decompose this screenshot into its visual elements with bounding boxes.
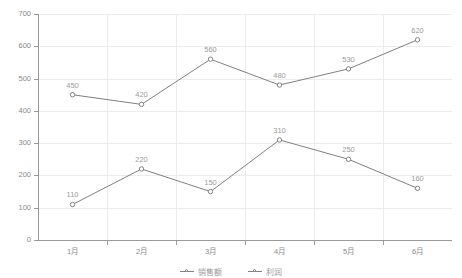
y-tick-label: 500 [18,74,31,83]
data-point-label: 250 [342,145,355,154]
data-point-label: 620 [411,26,424,35]
data-point-label: 150 [204,178,217,187]
x-tick-label: 1月 [67,247,78,256]
data-point-label: 560 [204,45,217,54]
data-point-marker [346,157,350,161]
data-point-marker [415,38,419,42]
data-point-label: 160 [411,174,424,183]
data-point-label: 530 [342,55,355,64]
y-tick-label: 0 [27,235,31,244]
data-point-label: 110 [67,190,79,199]
data-point-marker [415,186,419,190]
grid-lines [38,14,452,240]
legend-entry[interactable]: 销售额 [180,266,222,277]
y-tick-label: 200 [18,170,31,179]
y-tick-label: 100 [18,203,31,212]
data-point-marker [139,102,143,106]
data-point-marker [346,67,350,71]
y-axis: 0100200300400500600700 [18,9,38,244]
legend-label: 销售额 [198,266,222,277]
data-point-label: 310 [273,126,286,135]
x-tick-label: 6月 [412,247,423,256]
legend-entry[interactable]: 利润 [248,266,282,277]
data-point-marker [208,189,212,193]
y-tick-label: 400 [18,106,31,115]
legend-label: 利润 [266,266,282,277]
data-point-marker [70,202,74,206]
data-point-marker [277,138,281,142]
data-point-marker [139,167,143,171]
data-point-label: 420 [135,90,148,99]
x-tick-label: 3月 [205,247,216,256]
x-tick-label: 5月 [343,247,354,256]
x-tick-label: 4月 [274,247,285,256]
x-tick-label: 2月 [136,247,147,256]
y-tick-label: 300 [18,138,31,147]
y-tick-label: 700 [18,9,31,18]
data-point-marker [70,93,74,97]
x-axis: 1月2月3月4月5月6月 [38,241,452,257]
data-point-marker [277,83,281,87]
data-point-label: 450 [66,81,79,90]
data-point-marker [208,57,212,61]
data-point-label: 480 [273,71,286,80]
data-point-label: 220 [135,155,148,164]
legend-swatch-icon [248,271,262,272]
legend-swatch-icon [180,271,194,272]
chart-legend: 销售额利润 [0,266,462,278]
y-tick-label: 600 [18,41,31,50]
